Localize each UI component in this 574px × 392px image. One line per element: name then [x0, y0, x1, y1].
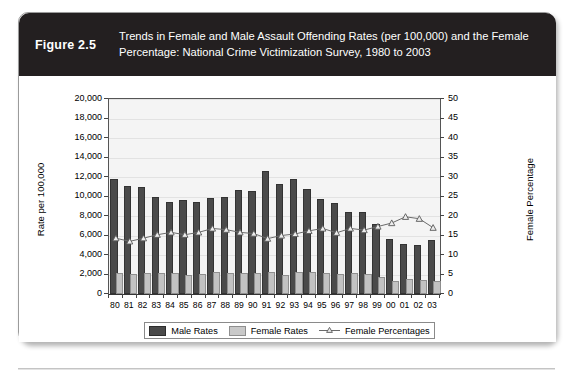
x-axis-tick-mark [274, 294, 275, 298]
x-axis-tick-mark [425, 294, 426, 298]
y-axis-right-tick-label: 50 [448, 94, 458, 103]
x-axis-tick-mark [301, 294, 302, 298]
y-axis-left-tick-label: 12,000 [50, 172, 102, 181]
y-axis-right-tick-mark [440, 176, 444, 177]
chart-area: Rate per 100,000 Female Percentage 02,00… [19, 76, 556, 342]
y-axis-left-tick-label: 0 [50, 289, 102, 298]
y-axis-left-tick-mark [104, 118, 108, 119]
y-axis-right-tick-label: 5 [448, 269, 453, 278]
chart-legend: Male Rates Female Rates Female Percentag… [144, 322, 435, 339]
y-axis-left-tick-mark [104, 137, 108, 138]
y-axis-left-tick-label: 8,000 [50, 211, 102, 220]
legend-item-female-percentages: Female Percentages [319, 326, 430, 336]
female-percentage-line [109, 99, 440, 294]
legend-item-female-rates: Female Rates [229, 326, 308, 336]
y-axis-right-tick-label: 10 [448, 250, 458, 259]
y-axis-right-tick-label: 0 [448, 289, 453, 298]
x-axis-tick-mark [205, 294, 206, 298]
x-axis-tick-mark [287, 294, 288, 298]
y-axis-left-tick-label: 16,000 [50, 133, 102, 142]
y-axis-right-tick-label: 45 [448, 113, 458, 122]
y-axis-left-tick-mark [104, 274, 108, 275]
y-axis-right-tick-mark [440, 293, 444, 294]
y-axis-left-tick-mark [104, 235, 108, 236]
y-axis-left-tick-label: 2,000 [50, 269, 102, 278]
y-axis-right-tick-mark [440, 137, 444, 138]
x-axis-tick-mark [163, 294, 164, 298]
x-axis-tick-mark [218, 294, 219, 298]
y-axis-right-tick-label: 15 [448, 230, 458, 239]
y-axis-right-tick-mark [440, 215, 444, 216]
x-axis-tick-mark [370, 294, 371, 298]
line-marker-80 [113, 235, 119, 241]
y-axis-right-tick-mark [440, 254, 444, 255]
x-axis-tick-mark [329, 294, 330, 298]
x-axis-tick-mark [342, 294, 343, 298]
line-triangle-marker-icon [319, 326, 340, 335]
legend-item-male-rates: Male Rates [149, 326, 217, 336]
x-axis-tick-mark [177, 294, 178, 298]
x-axis-tick-mark [315, 294, 316, 298]
y-axis-right-tick-label: 30 [448, 172, 458, 181]
footer-divider [18, 368, 555, 370]
legend-label-female-percentages: Female Percentages [345, 326, 430, 336]
y-axis-right-tick-mark [440, 196, 444, 197]
line-marker-00 [389, 220, 395, 226]
x-axis-tick-mark [108, 294, 109, 298]
y-axis-left-tick-mark [104, 176, 108, 177]
x-axis-tick-mark [384, 294, 385, 298]
line-marker-01 [402, 214, 408, 220]
y-axis-right-tick-label: 35 [448, 152, 458, 161]
figure-caption: Trends in Female and Male Assault Offend… [119, 29, 556, 60]
y-axis-left-tick-mark [104, 196, 108, 197]
y-axis-right-tick-label: 25 [448, 191, 458, 200]
legend-label-female-rates: Female Rates [251, 326, 308, 336]
y-axis-left-tick-label: 14,000 [50, 152, 102, 161]
y-axis-left-tick-label: 4,000 [50, 250, 102, 259]
x-axis-tick-mark [136, 294, 137, 298]
y-axis-right-tick-label: 20 [448, 211, 458, 220]
y-axis-left-tick-mark [104, 98, 108, 99]
female-swatch-icon [229, 326, 246, 336]
x-axis-tick-mark [122, 294, 123, 298]
y-axis-left-tick-label: 18,000 [50, 113, 102, 122]
x-axis-tick-mark [398, 294, 399, 298]
y-axis-left-tick-label: 20,000 [50, 94, 102, 103]
y-axis-right-tick-mark [440, 274, 444, 275]
y-axis-right-tick-label: 40 [448, 133, 458, 142]
figure-card: Figure 2.5 Trends in Female and Male Ass… [18, 12, 555, 342]
x-axis-tick-mark [260, 294, 261, 298]
x-axis-tick-mark [149, 294, 150, 298]
x-axis-tick-mark [439, 294, 440, 298]
x-axis-label-03: 03 [424, 300, 440, 310]
y-axis-left-tick-mark [104, 254, 108, 255]
x-axis-tick-mark [246, 294, 247, 298]
line-marker-84 [168, 229, 174, 235]
x-axis-tick-mark [411, 294, 412, 298]
y-axis-right-tick-mark [440, 98, 444, 99]
y-axis-right-tick-mark [440, 118, 444, 119]
y-axis-right-title: Female Percentage [524, 145, 535, 255]
legend-label-male-rates: Male Rates [171, 326, 217, 336]
plot-area [108, 98, 441, 295]
y-axis-right-tick-mark [440, 235, 444, 236]
x-axis-tick-mark [356, 294, 357, 298]
y-axis-left-tick-mark [104, 157, 108, 158]
x-axis-tick-mark [232, 294, 233, 298]
y-axis-left-title: Rate per 100,000 [35, 145, 46, 255]
line-marker-03 [430, 225, 436, 231]
figure-number-label: Figure 2.5 [19, 38, 119, 52]
x-axis-tick-mark [191, 294, 192, 298]
figure-header-banner: Figure 2.5 Trends in Female and Male Ass… [19, 13, 556, 76]
figure-caption-line-1: Trends in Female and Male Assault Offend… [119, 29, 534, 45]
y-axis-left-tick-label: 6,000 [50, 230, 102, 239]
y-axis-left-tick-label: 10,000 [50, 191, 102, 200]
y-axis-right-tick-mark [440, 157, 444, 158]
line-marker-95 [320, 225, 326, 231]
y-axis-left-tick-mark [104, 215, 108, 216]
figure-caption-line-2: Percentage: National Crime Victimization… [119, 45, 534, 61]
male-swatch-icon [149, 326, 166, 336]
